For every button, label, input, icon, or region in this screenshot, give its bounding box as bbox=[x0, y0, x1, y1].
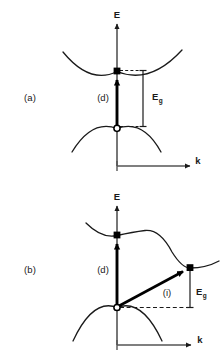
panel-a-momentum-axis-label: k bbox=[195, 155, 201, 166]
panel-b-band-gap-subscript: g bbox=[203, 292, 207, 300]
panel-a-label: (a) bbox=[24, 92, 36, 103]
panel-a-conduction-band bbox=[63, 50, 182, 75]
panel-a-direct-transition-label: (d) bbox=[97, 92, 109, 103]
panel-b-indirect-transition-label: (i) bbox=[163, 287, 171, 298]
panel-b-conduction-band bbox=[86, 223, 219, 268]
panel-b-indirect-transition-arrow bbox=[117, 272, 183, 308]
panel-a: (a) E k (d) Eg bbox=[24, 9, 201, 171]
panel-a-band-gap-label: Eg bbox=[152, 91, 163, 105]
panel-a-band-gap-subscript: g bbox=[159, 97, 163, 105]
panel-a-energy-axis-label: E bbox=[114, 9, 120, 20]
panel-a-band-gap-symbol: E bbox=[152, 91, 158, 102]
panel-b-band-gap-symbol: E bbox=[196, 286, 202, 297]
panel-b-final-state-marker-indirect bbox=[187, 264, 194, 271]
panel-b-label: (b) bbox=[24, 264, 36, 275]
panel-b-band-gap-label: Eg bbox=[196, 286, 207, 300]
band-structure-figure: (a) E k (d) Eg bbox=[0, 0, 223, 359]
band-diagram-svg: (a) E k (d) Eg bbox=[0, 0, 223, 359]
panel-b-momentum-axis-label: k bbox=[197, 334, 203, 345]
panel-b: (b) E k (d) (i) Eg bbox=[24, 191, 219, 350]
panel-a-initial-state-marker bbox=[114, 125, 120, 131]
panel-b-energy-axis-label: E bbox=[114, 191, 120, 202]
panel-b-final-state-marker-direct bbox=[114, 232, 121, 239]
panel-a-final-state-marker bbox=[114, 68, 121, 75]
panel-b-direct-transition-label: (d) bbox=[97, 264, 109, 275]
panel-b-initial-state-marker bbox=[114, 304, 120, 310]
